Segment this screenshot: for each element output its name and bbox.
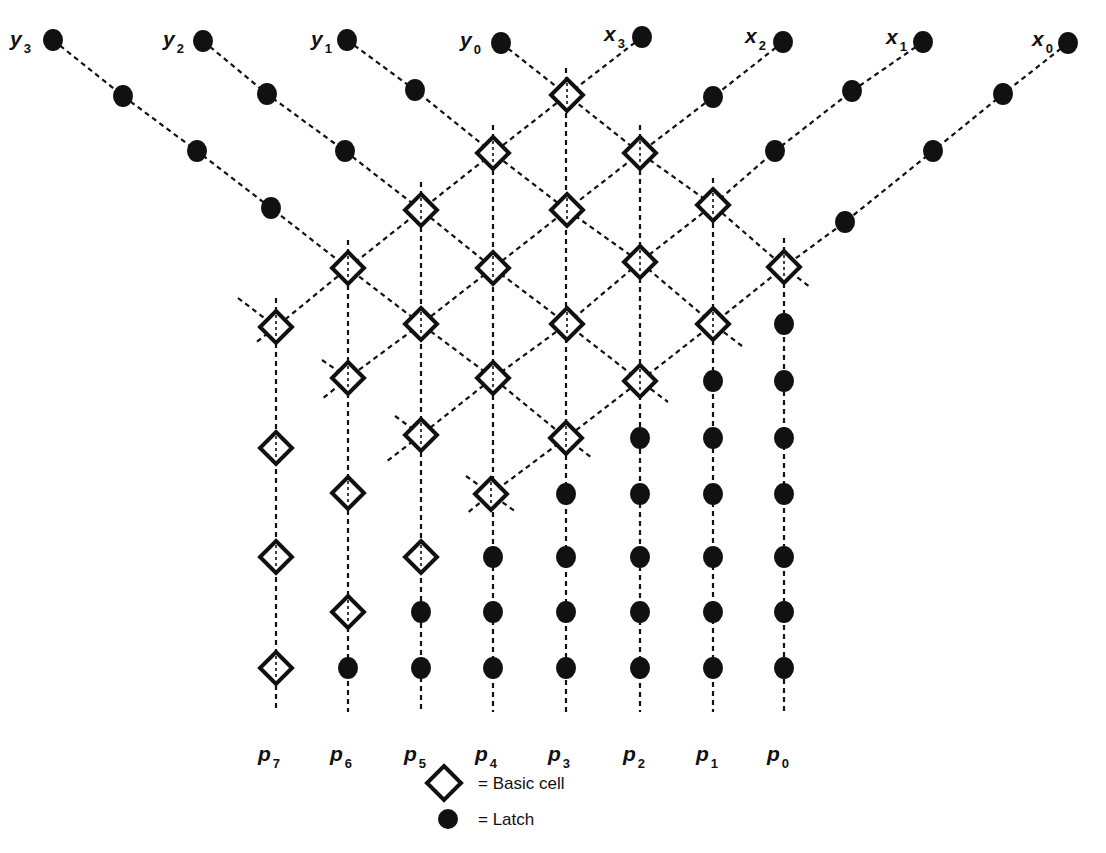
latch-dot-icon [993, 83, 1013, 105]
y0-chain-line [501, 43, 810, 287]
legend-basic-cell-label: = Basic cell [478, 774, 564, 793]
latch-dot-icon [630, 427, 650, 449]
latch-dot-icon [774, 313, 794, 335]
input-label-y3: y3 [9, 27, 31, 56]
latch-dot-icon [483, 657, 503, 679]
basic-cell [477, 137, 509, 169]
latch-dot-icon [842, 80, 862, 102]
latch-dot-icon [630, 483, 650, 505]
latch-dot-icon [774, 427, 794, 449]
output-label-p1: p1 [695, 742, 718, 771]
latch-dot-icon [632, 26, 652, 48]
output-label-p5: p5 [403, 742, 426, 771]
latch-dot-icon [913, 31, 933, 53]
latch-dot-icon [703, 601, 723, 623]
x3-chain-line [254, 37, 642, 344]
x1-chain-line [386, 42, 923, 462]
basic-cell [624, 246, 656, 278]
latch-dot-icon [774, 370, 794, 392]
basic-cell [550, 422, 582, 454]
latch-dot-icon [257, 83, 277, 105]
latch-dot-icon [337, 29, 357, 51]
latch-dot-icon [703, 427, 723, 449]
input-label-x1: x1 [885, 25, 907, 54]
latch-dot-icon [491, 32, 511, 54]
latch-dot-icon [773, 31, 793, 53]
output-label-p0: p0 [766, 742, 789, 771]
latch-dot-icon [556, 601, 576, 623]
latch-dot-icon [703, 546, 723, 568]
latch-dot-icon [338, 657, 358, 679]
y3-chain-line [53, 40, 592, 458]
latch-dot-icon [630, 601, 650, 623]
latch-dot-icon [411, 601, 431, 623]
basic-cell [551, 194, 583, 226]
latch-dot-icon [113, 85, 133, 107]
latch-dot-icon [774, 657, 794, 679]
basic-cell [260, 432, 292, 464]
basic-cell [551, 308, 583, 340]
latches [43, 26, 1078, 679]
basic-cell [260, 311, 292, 343]
input-label-x2: x2 [744, 24, 766, 53]
basic-cell [260, 541, 292, 573]
output-label-p3: p3 [547, 742, 570, 771]
basic-cell [551, 79, 583, 111]
basic-cell [475, 478, 507, 510]
input-label-y2: y2 [162, 27, 184, 56]
latch-dot-icon [483, 601, 503, 623]
latch-dot-icon [187, 140, 207, 162]
input-labels: y3y2y1y0x3x2x1x0 [9, 22, 1053, 57]
latch-dot-icon [405, 79, 425, 101]
latch-dot-icon [1058, 32, 1078, 54]
legend: = Basic cell = Latch [427, 766, 564, 829]
latch-dot-icon [411, 657, 431, 679]
input-label-x3: x3 [603, 22, 625, 51]
basic-cell [332, 477, 364, 509]
systolic-multiplier-diagram: y3y2y1y0x3x2x1x0 p7p6p5p4p3p2p1p0 = Basi… [0, 0, 1106, 853]
latch-dot-icon [438, 809, 458, 829]
latch-dot-icon [556, 657, 576, 679]
legend-latch-label: = Latch [478, 810, 534, 829]
latch-dot-icon [556, 546, 576, 568]
latch-dot-icon [43, 29, 63, 51]
latch-dot-icon [483, 546, 503, 568]
latch-dot-icon [703, 370, 723, 392]
latch-dot-icon [923, 140, 943, 162]
basic-cell [332, 252, 364, 284]
latch-dot-icon [703, 86, 723, 108]
basic-cell [624, 365, 656, 397]
basic-cell [697, 308, 729, 340]
latch-dot-icon [703, 657, 723, 679]
basic-cell [260, 652, 292, 684]
latch-dot-icon [774, 483, 794, 505]
output-label-p7: p7 [257, 742, 280, 771]
latch-dot-icon [261, 197, 281, 219]
latch-dot-icon [556, 483, 576, 505]
latch-dot-icon [774, 601, 794, 623]
input-label-y0: y0 [459, 28, 481, 57]
latch-dot-icon [774, 546, 794, 568]
latch-dot-icon [765, 140, 785, 162]
basic-cell [624, 137, 656, 169]
latch-dot-icon [703, 483, 723, 505]
latch-dot-icon [630, 546, 650, 568]
input-label-x0: x0 [1031, 27, 1053, 56]
basic-cell [477, 362, 509, 394]
legend-basic-cell: = Basic cell [427, 766, 564, 800]
basic-cell [477, 252, 509, 284]
output-label-p6: p6 [329, 742, 352, 771]
basic-cell [405, 194, 437, 226]
basic-cell [332, 596, 364, 628]
latch-dot-icon [835, 211, 855, 233]
basic-cell-diamond-icon [427, 766, 461, 800]
latch-dot-icon [335, 140, 355, 162]
output-label-p2: p2 [622, 742, 645, 771]
basic-cell [405, 419, 437, 451]
latch-dot-icon [193, 30, 213, 52]
basic-cell [405, 308, 437, 340]
input-label-y1: y1 [310, 27, 332, 56]
basic-cell [405, 541, 437, 573]
basic-cell [332, 362, 364, 394]
latch-dot-icon [630, 657, 650, 679]
